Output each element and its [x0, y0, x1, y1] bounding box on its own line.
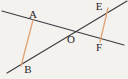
vertex-label-b: B: [24, 64, 31, 75]
vertex-label-f: F: [96, 42, 102, 53]
vertex-label-o: O: [67, 34, 75, 45]
figure-canvas: [0, 0, 128, 79]
geometry-figure: A B E O F: [0, 0, 128, 79]
vertex-label-e: E: [96, 1, 103, 12]
vertex-label-a: A: [29, 9, 37, 20]
